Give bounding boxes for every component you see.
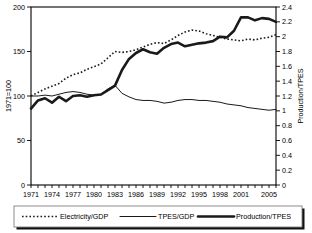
legend-label-production-tpes: Production/TPES: [236, 212, 291, 221]
x-axis-tick-label: 2005: [261, 190, 277, 199]
y-axis-tick-label: 50: [17, 136, 25, 145]
y2-axis-tick-label: 2.2: [282, 17, 292, 26]
y2-axis-tick-label: 1.6: [282, 62, 292, 71]
y2-axis-tick-label: 1.2: [282, 92, 292, 101]
y2-axis-tick-label: 0: [282, 181, 286, 190]
y2-axis-tick-label: 0.6: [282, 136, 292, 145]
y2-axis-tick-label: 0.8: [282, 121, 292, 130]
x-axis-tick-label: 1974: [44, 190, 60, 199]
y2-axis-tick-label: 1.8: [282, 47, 292, 56]
y-axis-tick-label: 150: [13, 47, 25, 56]
series-line-production-tpes: [31, 17, 276, 108]
plot-area-border: [31, 7, 276, 185]
y2-axis-tick-label: 0.4: [282, 151, 292, 160]
y-axis-tick-label: 100: [13, 92, 25, 101]
legend-label-tpes-gdp: TPES/GDP: [158, 212, 195, 221]
y2-axis-tick-label: 1: [282, 106, 286, 115]
y2-axis-tick-label: 1.4: [282, 77, 292, 86]
x-axis-tick-label: 2001: [233, 190, 249, 199]
y2-axis-tick-label: 0.2: [282, 166, 292, 175]
y2-axis-tick-label: 2: [282, 32, 286, 41]
x-axis-tick-label: 1977: [65, 190, 81, 199]
y2-axis-title: Production/TPES: [296, 68, 305, 123]
chart-figure: 05010015020000.20.40.60.811.21.41.61.822…: [0, 0, 312, 233]
y-axis-tick-label: 200: [13, 3, 25, 12]
series-line-tpes-gdp: [31, 85, 276, 110]
x-axis-tick-label: 1989: [149, 190, 165, 199]
x-axis-tick-label: 1980: [86, 190, 102, 199]
series-line-electricity-gdp: [31, 30, 276, 96]
x-axis-tick-label: 1995: [191, 190, 207, 199]
line-chart: 05010015020000.20.40.60.811.21.41.61.822…: [0, 0, 312, 233]
x-axis-tick-label: 1986: [128, 190, 144, 199]
legend-label-electricity-gdp: Electricity/GDP: [60, 212, 109, 221]
x-axis-tick-label: 1992: [170, 190, 186, 199]
x-axis-tick-label: 1971: [23, 190, 39, 199]
x-axis-tick-label: 1983: [107, 190, 123, 199]
y-axis-tick-label: 0: [21, 181, 25, 190]
y-axis-title: 1971=100: [4, 80, 13, 112]
y2-axis-tick-label: 2.4: [282, 3, 292, 12]
x-axis-tick-label: 1998: [212, 190, 228, 199]
